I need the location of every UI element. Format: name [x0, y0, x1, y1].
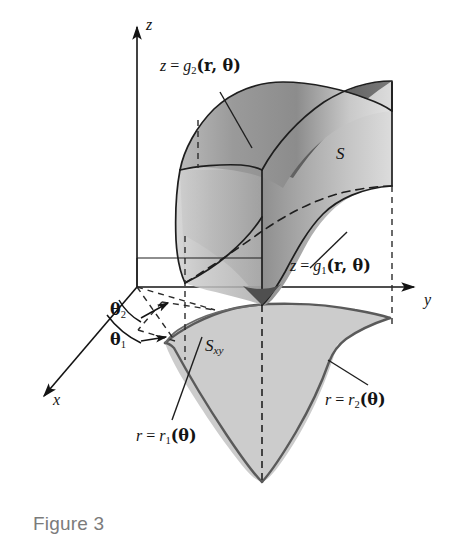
label-curve-r2: r = r2(θ): [325, 392, 386, 408]
g2-args: (r, θ): [197, 56, 241, 75]
label-surface-g1: z = g1(r, θ): [290, 258, 371, 274]
axis-label-z: z: [146, 17, 152, 33]
label-base-region-sxy: Sxy: [205, 337, 223, 354]
theta2-symbol: θ: [110, 300, 121, 319]
r1-equals: =: [142, 427, 159, 444]
theta2-subscript: 2: [121, 309, 126, 320]
theta1-subscript: 1: [121, 339, 126, 350]
sxy-subscript: xy: [214, 344, 224, 356]
label-curve-r1: r = r1(θ): [136, 428, 197, 444]
sxy-base: S: [205, 336, 214, 355]
label-surface-g2: z = g2(r, θ): [160, 58, 241, 74]
r1-args: (θ): [171, 426, 197, 445]
label-solid-s: S: [336, 145, 345, 162]
figure-container: z y x z = g2(r, θ) z = g1(r, θ) S Sxy θ1…: [0, 0, 455, 551]
r2-equals: =: [331, 391, 348, 408]
r2-args: (θ): [360, 390, 386, 409]
figure-graphic: [0, 0, 455, 551]
g1-equals: =: [296, 257, 313, 274]
label-theta2: θ2: [110, 302, 126, 318]
theta1-symbol: θ: [110, 330, 121, 349]
axis-label-x: x: [53, 392, 60, 408]
axis-label-y: y: [424, 292, 431, 308]
label-theta1: θ1: [110, 332, 126, 348]
figure-caption: Figure 3: [33, 513, 104, 535]
g2-equals: =: [166, 57, 183, 74]
g1-args: (r, θ): [327, 256, 371, 275]
